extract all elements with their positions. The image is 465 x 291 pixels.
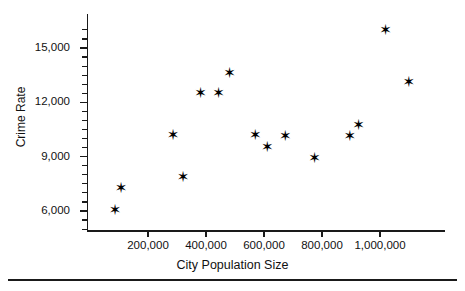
y-tick-minor — [82, 147, 88, 148]
y-tick-minor — [82, 120, 88, 121]
data-point-marker: ✶ — [223, 67, 235, 79]
y-tick-minor — [82, 66, 88, 67]
data-point-marker: ✶ — [279, 130, 291, 142]
y-tick-minor — [82, 138, 88, 139]
x-tick-major — [205, 231, 206, 237]
y-tick-label: 15,000 — [35, 42, 70, 54]
plot-area: 6,0009,00012,00015,000 200,000400,000600… — [0, 0, 465, 291]
y-tick-minor — [82, 84, 88, 85]
x-tick-major — [147, 231, 148, 237]
y-tick-label: 9,000 — [41, 151, 70, 163]
data-point-marker: ✶ — [379, 24, 391, 36]
y-tick-minor — [82, 219, 88, 220]
data-point-marker: ✶ — [352, 119, 364, 131]
x-axis-line — [87, 230, 445, 231]
y-tick-minor — [82, 229, 88, 230]
y-tick-minor — [82, 129, 88, 130]
y-tick-label: 12,000 — [35, 96, 70, 108]
data-point-marker: ✶ — [115, 182, 127, 194]
y-tick-minor — [82, 38, 88, 39]
data-point-marker: ✶ — [212, 87, 224, 99]
y-tick-major — [80, 210, 88, 211]
data-point-marker: ✶ — [308, 152, 320, 164]
y-tick-minor — [82, 93, 88, 94]
y-tick-label: 6,000 — [41, 205, 70, 217]
y-axis-title: Crime Rate — [14, 82, 28, 152]
y-tick-minor — [82, 183, 88, 184]
y-tick-major — [80, 156, 88, 157]
y-tick-major — [80, 102, 88, 103]
data-point-marker: ✶ — [402, 76, 414, 88]
x-tick-major — [379, 231, 380, 237]
y-tick-minor — [82, 174, 88, 175]
data-point-marker: ✶ — [261, 141, 273, 153]
y-tick-major — [80, 47, 88, 48]
y-tick-minor — [82, 111, 88, 112]
y-tick-minor — [82, 201, 88, 202]
data-point-marker: ✶ — [177, 171, 189, 183]
data-point-marker: ✶ — [249, 129, 261, 141]
data-point-marker: ✶ — [167, 129, 179, 141]
y-tick-minor — [82, 192, 88, 193]
x-tick-label: 1,000,000 — [335, 239, 425, 251]
y-tick-minor — [82, 75, 88, 76]
data-point-marker: ✶ — [109, 204, 121, 216]
x-tick-major — [263, 231, 264, 237]
y-tick-minor — [82, 165, 88, 166]
x-axis-title: City Population Size — [0, 258, 465, 272]
bottom-rule-divider — [8, 279, 457, 281]
y-tick-minor — [82, 29, 88, 30]
scatter-plot-figure: 6,0009,00012,00015,000 200,000400,000600… — [0, 0, 465, 291]
y-tick-minor — [82, 56, 88, 57]
x-tick-major — [321, 231, 322, 237]
data-point-marker: ✶ — [194, 87, 206, 99]
